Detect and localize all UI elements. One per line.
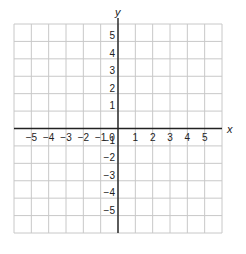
x-tick-label: 5: [202, 132, 208, 143]
x-tick-label: −2: [78, 132, 90, 143]
x-tick-label: −4: [43, 132, 55, 143]
x-tick-label: 4: [185, 132, 191, 143]
y-tick-label: −4: [104, 187, 116, 198]
coordinate-plane: −5−4−3−2−1012345 −5−4−3−2−112345 x y: [0, 0, 246, 254]
y-tick-label: −2: [104, 152, 116, 163]
y-tick-label: −5: [104, 205, 116, 216]
y-tick-label: 3: [109, 65, 115, 76]
y-tick-labels: −5−4−3−2−112345: [104, 30, 116, 215]
x-axis-label: x: [226, 123, 233, 135]
x-tick-labels: −5−4−3−2−1012345: [26, 132, 208, 143]
x-tick-label: 1: [133, 132, 139, 143]
y-tick-label: 2: [109, 83, 115, 94]
x-tick-label: 3: [167, 132, 173, 143]
y-tick-label: 5: [109, 30, 115, 41]
x-tick-label: 2: [150, 132, 156, 143]
x-tick-label: −5: [26, 132, 38, 143]
y-tick-label: −3: [104, 170, 116, 181]
x-tick-label: −3: [60, 132, 72, 143]
y-axis-label: y: [114, 6, 122, 18]
axes: [14, 18, 222, 233]
y-tick-label: 4: [109, 48, 115, 59]
y-tick-label: −1: [104, 135, 116, 146]
y-tick-label: 1: [109, 100, 115, 111]
